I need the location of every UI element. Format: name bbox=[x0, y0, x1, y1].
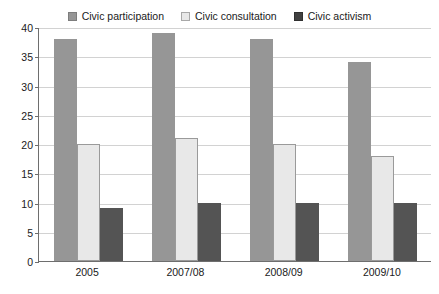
bar bbox=[296, 203, 319, 262]
bar-group-2009-10 bbox=[333, 28, 431, 261]
legend-label-civic-participation: Civic participation bbox=[82, 11, 164, 22]
legend-label-civic-consultation: Civic consultation bbox=[195, 11, 277, 22]
y-axis-labels: 0510152025303540 bbox=[0, 28, 33, 262]
y-axis-tick-label: 40 bbox=[21, 23, 33, 34]
y-axis-tick-label: 15 bbox=[21, 169, 33, 180]
y-axis-tick bbox=[35, 262, 39, 263]
x-axis-tick-label: 2005 bbox=[38, 266, 136, 278]
y-axis-tick-label: 10 bbox=[21, 198, 33, 209]
bar bbox=[77, 144, 100, 261]
y-axis-tick-label: 0 bbox=[27, 257, 33, 268]
x-axis-tick-label: 2008/09 bbox=[235, 266, 333, 278]
bar bbox=[348, 62, 371, 261]
bar bbox=[198, 203, 221, 262]
legend-swatch-icon-civic-consultation bbox=[181, 12, 190, 21]
chart-legend: Civic participation Civic consultation C… bbox=[0, 8, 439, 24]
plot-area bbox=[38, 28, 431, 262]
legend-swatch-icon-civic-activism bbox=[294, 12, 303, 21]
bar-group-2008-09 bbox=[235, 28, 333, 261]
legend-label-civic-activism: Civic activism bbox=[308, 11, 372, 22]
bar bbox=[152, 33, 175, 261]
legend-item-civic-activism: Civic activism bbox=[294, 11, 372, 22]
y-axis-tick-label: 20 bbox=[21, 140, 33, 151]
x-axis-labels: 20052007/082008/092009/10 bbox=[38, 266, 431, 278]
x-axis-tick-label: 2009/10 bbox=[333, 266, 431, 278]
bar bbox=[100, 208, 123, 261]
bar bbox=[273, 144, 296, 261]
bars-layer bbox=[39, 28, 431, 261]
bar bbox=[175, 138, 198, 261]
bar-group-2007-08 bbox=[137, 28, 235, 261]
bar-group-2005 bbox=[39, 28, 137, 261]
legend-item-civic-consultation: Civic consultation bbox=[181, 11, 277, 22]
y-axis-tick-label: 5 bbox=[27, 227, 33, 238]
legend-swatch-icon-civic-participation bbox=[68, 12, 77, 21]
bar bbox=[371, 156, 394, 261]
x-axis-tick-label: 2007/08 bbox=[136, 266, 234, 278]
y-axis-tick-label: 35 bbox=[21, 52, 33, 63]
bar bbox=[250, 39, 273, 261]
bar bbox=[54, 39, 77, 261]
y-axis-tick-label: 30 bbox=[21, 81, 33, 92]
bar-chart: Civic participation Civic consultation C… bbox=[0, 0, 439, 294]
bar bbox=[394, 203, 417, 262]
legend-item-civic-participation: Civic participation bbox=[68, 11, 164, 22]
y-axis-tick-label: 25 bbox=[21, 110, 33, 121]
